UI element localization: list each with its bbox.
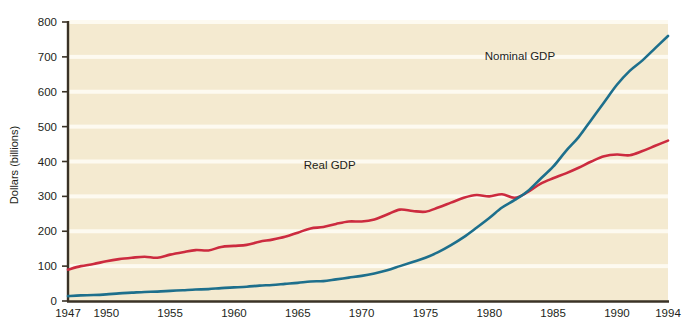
y-axis-tick-label: 400	[38, 156, 57, 168]
x-axis-tick-label: 1965	[285, 307, 311, 319]
y-axis-tick-label: 800	[38, 16, 57, 28]
gridline	[68, 229, 668, 233]
y-axis-tick-label: 600	[38, 86, 57, 98]
x-axis-tick-label: 1950	[94, 307, 120, 319]
y-axis-tick-label: 100	[38, 260, 57, 272]
gridline	[68, 55, 668, 59]
series-label-nominal-gdp: Nominal GDP	[485, 50, 556, 62]
y-axis-tick-label: 0	[51, 295, 57, 307]
y-axis-tick-label: 300	[38, 190, 57, 202]
y-axis-tick-label: 700	[38, 51, 57, 63]
gridline	[68, 194, 668, 198]
chart-canvas: 0100200300400500600700800 19471950195519…	[0, 0, 696, 329]
y-axis-tick-label: 200	[38, 225, 57, 237]
x-axis-tick-label: 1975	[413, 307, 439, 319]
gridline	[68, 125, 668, 129]
x-axis-tick-label: 1994	[655, 307, 681, 319]
y-axis-tick-label: 500	[38, 121, 57, 133]
x-axis-tick-label: 1960	[221, 307, 247, 319]
x-axis-tick-label: 1970	[349, 307, 375, 319]
gridline	[68, 264, 668, 268]
x-axis-tick-label: 1985	[540, 307, 566, 319]
x-axis-tick-label: 1955	[157, 307, 183, 319]
x-axis-tick-label: 1947	[55, 307, 81, 319]
gridline	[68, 90, 668, 94]
gridline	[68, 160, 668, 164]
y-axis-tick-labels: 0100200300400500600700800	[38, 16, 57, 307]
x-axis-tick-labels: 1947195019551960196519701975198019851990…	[55, 307, 681, 319]
series-label-real-gdp: Real GDP	[304, 159, 356, 171]
y-axis-title: Dollars (billions)	[8, 126, 20, 204]
x-axis-tick-label: 1990	[604, 307, 630, 319]
gridline	[68, 20, 668, 24]
gdp-line-chart: 0100200300400500600700800 19471950195519…	[0, 0, 696, 329]
x-axis-tick-label: 1980	[476, 307, 502, 319]
